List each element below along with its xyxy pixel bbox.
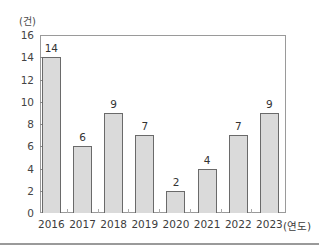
bottom-divider <box>0 243 319 245</box>
bar-value-label: 9 <box>254 98 284 110</box>
bar-2023 <box>260 113 279 213</box>
bar-value-label: 7 <box>223 120 253 132</box>
bar-value-label: 7 <box>130 120 160 132</box>
x-tick-label: 2023 <box>254 218 284 230</box>
y-axis-unit-label: (건) <box>19 13 36 28</box>
x-tick-mark <box>159 209 160 213</box>
y-tick-label: 16 <box>8 29 34 41</box>
x-tick-mark <box>251 209 252 213</box>
chart-title-cropped <box>80 0 240 2</box>
bar-2021 <box>198 169 217 214</box>
x-axis-unit-label: (연도) <box>283 218 311 233</box>
y-tick-label: 6 <box>8 140 34 152</box>
y-tick-label: 8 <box>8 118 34 130</box>
bar-value-label: 4 <box>192 154 222 166</box>
y-tick-label: 10 <box>8 96 34 108</box>
x-tick-label: 2022 <box>223 218 253 230</box>
x-tick-label: 2016 <box>36 218 66 230</box>
x-tick-mark <box>67 209 68 213</box>
y-tick-label: 2 <box>8 185 34 197</box>
y-tick-label: 12 <box>8 74 34 86</box>
bar-2019 <box>135 135 154 213</box>
x-tick-mark <box>128 209 129 213</box>
bar-2022 <box>229 135 248 213</box>
bar-value-label: 6 <box>68 131 98 143</box>
x-tick-label: 2019 <box>130 218 160 230</box>
x-tick-mark <box>221 209 222 213</box>
bar-value-label: 14 <box>36 42 66 54</box>
y-tick-label: 14 <box>8 51 34 63</box>
x-tick-label: 2017 <box>68 218 98 230</box>
x-tick-label: 2018 <box>99 218 129 230</box>
bar-value-label: 2 <box>161 176 191 188</box>
bar-2016 <box>42 57 61 213</box>
x-tick-label: 2020 <box>161 218 191 230</box>
y-tick-label: 0 <box>8 207 34 219</box>
x-tick-mark <box>190 209 191 213</box>
x-tick-label: 2021 <box>192 218 222 230</box>
bar-2018 <box>104 113 123 213</box>
x-tick-mark <box>98 209 99 213</box>
bar-2020 <box>166 191 185 213</box>
y-tick-label: 4 <box>8 163 34 175</box>
bar-value-label: 9 <box>99 98 129 110</box>
bar-2017 <box>73 146 92 213</box>
